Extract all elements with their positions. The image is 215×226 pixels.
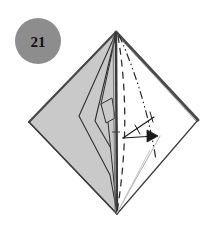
right-white-panel bbox=[116, 32, 198, 214]
step-badge-label: 21 bbox=[31, 34, 46, 50]
origami-kite-model bbox=[29, 32, 198, 214]
center-spine-line bbox=[116, 32, 117, 214]
origami-figure: 21 bbox=[0, 0, 215, 226]
origami-diagram-canvas: 21 bbox=[0, 0, 215, 226]
step-number-badge: 21 bbox=[15, 18, 61, 64]
